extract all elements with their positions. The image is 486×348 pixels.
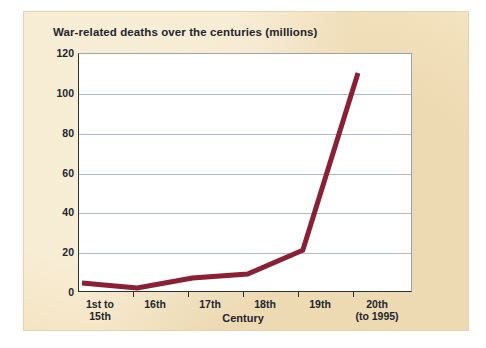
y-axis-tick-label: 60 bbox=[34, 167, 74, 179]
x-axis-tick-mark bbox=[133, 292, 134, 297]
y-axis-tick-label: 120 bbox=[34, 47, 74, 59]
x-axis-title: Century bbox=[0, 312, 486, 324]
gridline bbox=[79, 94, 411, 95]
gridline bbox=[79, 134, 411, 135]
gridline bbox=[79, 174, 411, 175]
x-axis-tick-mark bbox=[298, 292, 299, 297]
x-axis-tick-mark bbox=[353, 292, 354, 297]
gridline bbox=[79, 253, 411, 254]
gridline bbox=[79, 213, 411, 214]
y-axis-tick-label: 0 bbox=[34, 286, 74, 298]
y-axis-tick-label: 40 bbox=[34, 206, 74, 218]
chart-page: War-related deaths over the centuries (m… bbox=[0, 0, 486, 348]
x-axis-tick-mark bbox=[243, 292, 244, 297]
y-axis: 120 100 80 60 40 20 0 bbox=[30, 53, 74, 292]
x-axis-category-label-line1: 20th bbox=[330, 298, 424, 310]
y-axis-tick-label: 20 bbox=[34, 246, 74, 258]
y-axis-tick-label: 80 bbox=[34, 127, 74, 139]
plot-area bbox=[78, 53, 412, 292]
x-axis-tick-mark bbox=[188, 292, 189, 297]
chart-title: War-related deaths over the centuries (m… bbox=[53, 26, 317, 38]
y-axis-tick-label: 100 bbox=[34, 87, 74, 99]
